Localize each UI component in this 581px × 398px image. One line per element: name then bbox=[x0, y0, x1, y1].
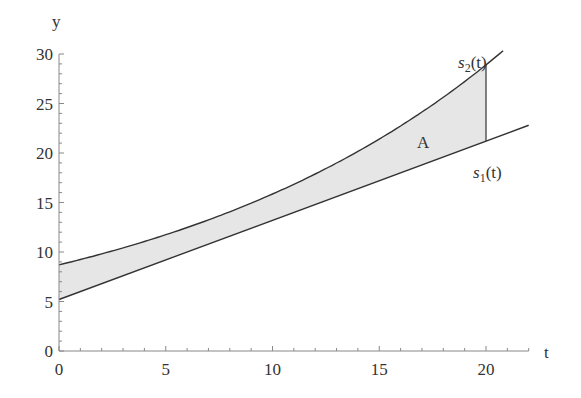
y-tick-label: 0 bbox=[45, 342, 54, 361]
s1-label: s1(t) bbox=[473, 163, 502, 185]
area-label: A bbox=[417, 133, 430, 152]
y-tick-label: 30 bbox=[36, 45, 53, 64]
x-tick-label: 0 bbox=[55, 360, 64, 379]
x-axis-label: t bbox=[544, 343, 549, 362]
y-axis-label: y bbox=[52, 12, 61, 31]
shaded-area-a bbox=[59, 65, 486, 300]
s2-label: s2(t) bbox=[458, 53, 487, 75]
y-tick-label: 5 bbox=[45, 293, 54, 312]
x-tick-label: 5 bbox=[162, 360, 171, 379]
x-tick-label: 15 bbox=[371, 360, 388, 379]
shaded-region bbox=[59, 65, 486, 300]
y-tick-label: 15 bbox=[36, 194, 53, 213]
y-tick-label: 20 bbox=[36, 144, 53, 163]
y-tick-label: 10 bbox=[36, 243, 53, 262]
y-tick-label: 25 bbox=[36, 95, 53, 114]
s1-curve bbox=[59, 125, 529, 299]
x-tick-label: 20 bbox=[478, 360, 495, 379]
chart: 05101520051015202530 y t A s2(t) s1(t) bbox=[0, 0, 581, 398]
x-tick-label: 10 bbox=[264, 360, 281, 379]
